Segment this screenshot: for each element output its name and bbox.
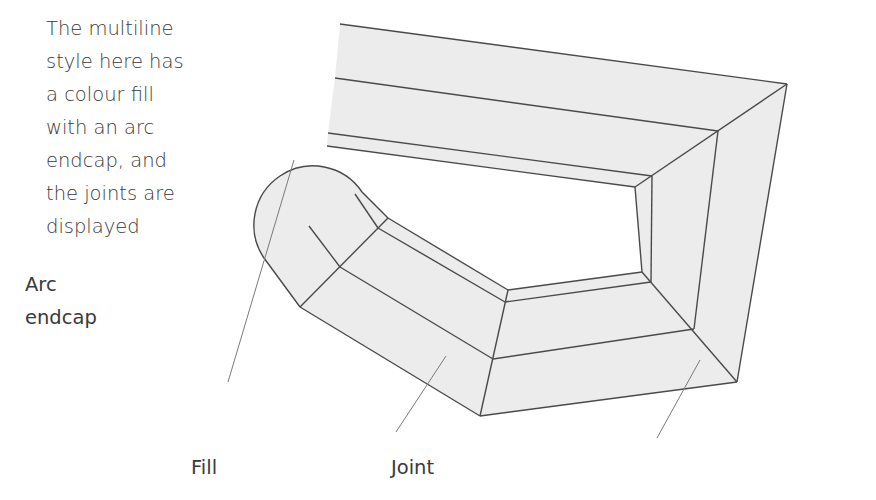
label-arc-line: Arc [25,268,97,301]
label-arc-line: endcap [25,301,97,334]
label-arc-endcap: Arc endcap [25,268,97,334]
multiline-diagram [0,0,876,500]
label-fill: Fill [191,451,217,484]
label-joint: Joint [391,451,434,484]
